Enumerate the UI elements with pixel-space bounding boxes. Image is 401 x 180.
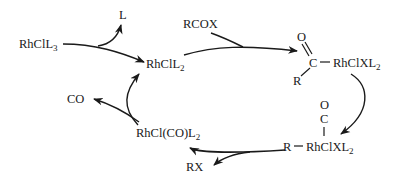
svg-text:R: R xyxy=(283,140,292,154)
species-rhcll2: RhClL2 xyxy=(146,57,185,73)
arrow-rx-release xyxy=(214,152,250,165)
species-acyl-complex: O C R RhClXL2 xyxy=(293,30,381,88)
product-rx-label: RX xyxy=(186,160,203,174)
svg-text:O: O xyxy=(320,98,329,112)
species-alkyl-carbonyl: O C R RhClXL2 xyxy=(283,98,354,156)
arrow-ligand-release xyxy=(98,25,121,46)
arrow-deinsertion xyxy=(341,74,365,134)
svg-text:C: C xyxy=(309,56,317,70)
svg-text:RhClXL2: RhClXL2 xyxy=(306,140,354,156)
species-rhcl-co-l2: RhCl(CO)L2 xyxy=(136,126,200,142)
svg-text:O: O xyxy=(297,30,306,44)
arrow-rcox-in xyxy=(211,33,243,47)
svg-text:RhClL3: RhClL3 xyxy=(19,37,58,53)
species-rhcll3: RhClL3 xyxy=(19,37,58,53)
svg-text:RhCl(CO)L2: RhCl(CO)L2 xyxy=(136,126,200,142)
co-label: CO xyxy=(67,92,84,106)
svg-text:RhClXL2: RhClXL2 xyxy=(333,56,381,72)
svg-text:C: C xyxy=(320,112,328,126)
arrow-reductive-elimination xyxy=(190,148,285,152)
reagent-rcox-label: RCOX xyxy=(183,17,218,31)
ligand-l-label: L xyxy=(119,8,127,22)
svg-text:RhClL2: RhClL2 xyxy=(146,57,185,73)
arrow-dissociation xyxy=(63,44,144,62)
catalytic-cycle-diagram: RhClL3 L RhClL2 RCOX O C R RhClXL2 O C R… xyxy=(0,0,401,180)
arrow-oxidative-addition xyxy=(184,47,297,55)
svg-text:R: R xyxy=(293,74,302,88)
